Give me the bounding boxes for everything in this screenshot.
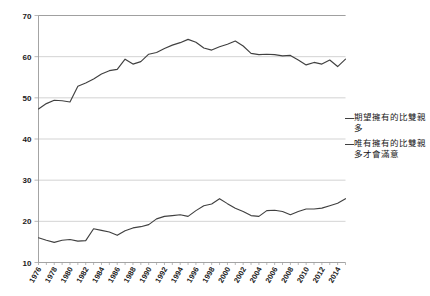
x-axis-tick-label: 2008 bbox=[279, 266, 295, 285]
y-axis-tick-label: 40 bbox=[23, 135, 32, 144]
y-axis-tick-label: 30 bbox=[23, 176, 32, 185]
x-axis-tick-label: 1992 bbox=[153, 266, 169, 285]
x-axis-tick-label: 1980 bbox=[59, 266, 75, 285]
x-axis-tick-label: 1982 bbox=[75, 266, 91, 285]
x-axis-tick-label: 2010 bbox=[295, 266, 311, 285]
legend-line-icon bbox=[345, 141, 354, 149]
series-line-0 bbox=[39, 39, 346, 109]
legend-item-label: 期望擁有的比雙親多 bbox=[354, 112, 430, 134]
x-axis-tick-label: 2014 bbox=[326, 265, 343, 285]
y-axis-tick-labels: 10203040506070 bbox=[23, 12, 39, 268]
series-lines bbox=[39, 39, 346, 242]
x-axis-tick-label: 2002 bbox=[232, 266, 248, 285]
chart-legend: 期望擁有的比雙親多 唯有擁有的比雙親多才會滿意 bbox=[345, 112, 430, 164]
x-axis-tick-label: 1978 bbox=[43, 266, 59, 285]
y-axis-tick-label: 10 bbox=[23, 259, 32, 268]
chart-container: 10203040506070 1976197819801982198419861… bbox=[0, 0, 430, 296]
legend-item-0[interactable]: 期望擁有的比雙親多 bbox=[345, 112, 430, 134]
x-axis-tick-label: 1986 bbox=[106, 266, 122, 285]
x-axis-tick-label: 1976 bbox=[27, 266, 43, 285]
x-axis-tick-label: 1984 bbox=[90, 265, 107, 285]
x-axis-tick-label: 2000 bbox=[216, 266, 232, 285]
y-axis-tick-label: 50 bbox=[23, 94, 32, 103]
x-axis-tick-label: 2006 bbox=[263, 266, 279, 285]
x-axis-tick-labels: 1976197819801982198419861988199019921994… bbox=[27, 265, 343, 285]
series-line-1 bbox=[39, 199, 346, 243]
y-axis-tick-label: 60 bbox=[23, 53, 32, 62]
x-axis-tick-label: 1998 bbox=[200, 266, 216, 285]
gridlines bbox=[39, 16, 346, 222]
y-axis-tick-label: 70 bbox=[23, 12, 32, 21]
legend-item-1[interactable]: 唯有擁有的比雙親多才會滿意 bbox=[345, 138, 430, 160]
legend-item-label: 唯有擁有的比雙親多才會滿意 bbox=[354, 138, 430, 160]
x-axis-tick-label: 1990 bbox=[137, 266, 153, 285]
x-axis-tick-label: 2012 bbox=[311, 266, 327, 285]
x-axis-tick-label: 1994 bbox=[169, 265, 186, 285]
x-axis-tick-label: 1996 bbox=[185, 266, 201, 285]
legend-line-icon bbox=[345, 115, 354, 123]
x-axis-tick-label: 1988 bbox=[122, 266, 138, 285]
x-axis-tick-label: 2004 bbox=[248, 265, 265, 285]
y-axis-tick-label: 20 bbox=[23, 217, 32, 226]
